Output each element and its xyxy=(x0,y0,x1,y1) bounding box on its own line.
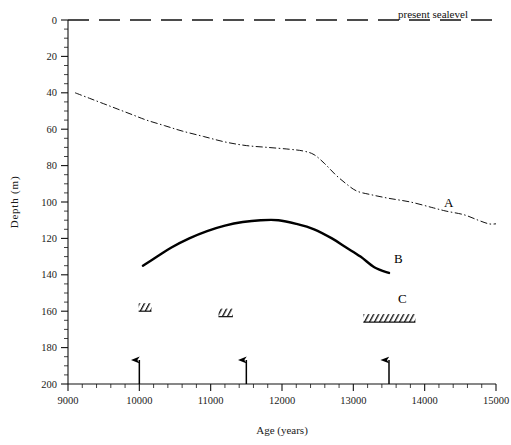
present-sealevel-label: present sealevel xyxy=(398,8,468,20)
curve-a-label: A xyxy=(444,195,454,210)
x-axis-title: Age (years) xyxy=(256,424,308,437)
x-tick-label: 11000 xyxy=(198,395,224,406)
hatched-bar xyxy=(219,309,233,317)
x-tick-label: 14000 xyxy=(412,395,438,406)
y-axis-title: Depth (m) xyxy=(8,176,21,229)
y-tick-label: 80 xyxy=(47,160,58,171)
y-tick-label: 0 xyxy=(52,15,57,26)
x-tick-label: 13000 xyxy=(340,395,366,406)
depth-age-chart: 020406080100120140160180200 900010000110… xyxy=(0,0,511,445)
y-tick-label: 140 xyxy=(41,269,57,280)
x-tick-label: 15000 xyxy=(483,395,509,406)
x-tick-label: 12000 xyxy=(269,395,295,406)
x-tick-label: 10000 xyxy=(126,395,152,406)
curve-b-label: B xyxy=(394,251,403,266)
hatched-bar xyxy=(139,303,152,311)
y-tick-label: 40 xyxy=(47,87,58,98)
y-tick-label: 160 xyxy=(41,306,57,317)
curve-c-label: C xyxy=(398,291,407,306)
y-tick-label: 120 xyxy=(41,233,57,244)
figure-container: 020406080100120140160180200 900010000110… xyxy=(0,0,511,445)
y-tick-label: 20 xyxy=(47,51,58,62)
y-tick-label: 200 xyxy=(41,379,57,390)
hatched-bar xyxy=(363,314,415,322)
y-tick-label: 100 xyxy=(41,197,57,208)
chart-background xyxy=(0,0,511,445)
y-tick-label: 60 xyxy=(47,124,58,135)
y-tick-label: 180 xyxy=(41,342,57,353)
x-tick-label: 9000 xyxy=(58,395,79,406)
